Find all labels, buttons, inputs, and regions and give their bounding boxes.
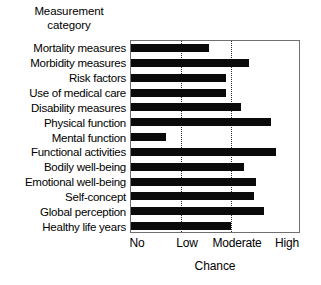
bar-row — [131, 86, 301, 101]
bar-row — [131, 204, 301, 219]
x-tick-label: Low — [176, 236, 197, 251]
bar-row — [131, 189, 301, 204]
bar-row — [131, 100, 301, 115]
category-label: Bodily well-being — [44, 160, 126, 174]
bar — [131, 118, 271, 126]
bar — [131, 163, 244, 171]
category-label: Self-concept — [65, 190, 126, 204]
bar-row — [131, 145, 301, 160]
category-axis-labels: Mortality measuresMorbidity measuresRisk… — [0, 41, 128, 233]
category-label: Mortality measures — [33, 41, 126, 55]
category-label: Disability measures — [31, 101, 126, 115]
y-axis-title-line-1: Measurement — [8, 4, 130, 18]
category-label: Healthy life years — [42, 220, 126, 234]
bar — [131, 192, 254, 200]
y-axis-title-line-2: category — [8, 18, 130, 32]
category-label: Emotional well-being — [25, 175, 126, 189]
y-axis-title: Measurement category — [8, 4, 130, 32]
bar-row — [131, 160, 301, 175]
plot-area — [130, 40, 300, 233]
bar — [131, 74, 226, 82]
category-label: Global perception — [40, 205, 126, 219]
bar — [131, 207, 264, 215]
bar-row — [131, 71, 301, 86]
category-label: Functional activities — [31, 145, 126, 159]
category-label: Risk factors — [69, 71, 126, 85]
bar — [131, 133, 166, 141]
bar — [131, 178, 256, 186]
bar-row — [131, 130, 301, 145]
bar — [131, 103, 241, 111]
bar — [131, 59, 249, 67]
bar-row — [131, 115, 301, 130]
plot-inner — [131, 41, 299, 232]
category-label: Physical function — [44, 116, 126, 130]
x-tick-label: No — [130, 236, 145, 251]
bar — [131, 222, 231, 230]
x-axis-tick-labels: NoLowModerateHigh — [0, 236, 321, 252]
x-axis-title: Chance — [130, 259, 300, 274]
bar — [131, 89, 226, 97]
category-label: Use of medical care — [29, 86, 126, 100]
category-label: Mental function — [52, 131, 126, 145]
x-tick-label: High — [275, 236, 299, 251]
bar — [131, 148, 276, 156]
category-label: Morbidity measures — [30, 56, 126, 70]
bar-row — [131, 219, 301, 234]
x-tick-label: Moderate — [212, 236, 261, 251]
bar-row — [131, 175, 301, 190]
bar-row — [131, 41, 301, 56]
chart-figure: Measurement category Mortality measuresM… — [0, 0, 321, 285]
bar — [131, 44, 209, 52]
bar-row — [131, 56, 301, 71]
